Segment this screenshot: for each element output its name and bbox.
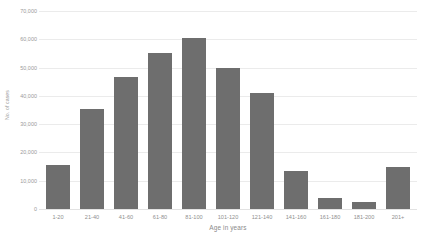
plot-area: [39, 11, 417, 209]
y-axis-title-text: No. of cases: [4, 89, 10, 119]
x-axis-tick-label: 141-160: [279, 211, 313, 223]
bar-slot: [381, 11, 415, 209]
bars-container: [39, 11, 417, 209]
y-axis-tick-label: 0: [34, 206, 37, 212]
x-axis-tick-labels: 1-2021-4041-6061-8081-100101-120121-1401…: [39, 211, 417, 223]
x-axis-tick-label: 101-120: [211, 211, 245, 223]
x-axis-tick-label: 161-180: [313, 211, 347, 223]
bar-chart: No. of cases 010,00020,00030,00040,00050…: [0, 0, 422, 241]
bar[interactable]: [148, 53, 172, 209]
x-axis-tick-label: 1-20: [41, 211, 75, 223]
bar[interactable]: [386, 167, 410, 209]
x-axis-tick-label: 61-80: [143, 211, 177, 223]
y-axis-tick-labels: 010,00020,00030,00040,00050,00060,00070,…: [12, 0, 37, 209]
bar[interactable]: [216, 68, 240, 209]
y-axis-tick-label: 50,000: [20, 65, 37, 71]
bar-slot: [109, 11, 143, 209]
bar[interactable]: [318, 198, 342, 209]
x-axis-tick-label: 41-60: [109, 211, 143, 223]
y-axis-tick-label: 30,000: [20, 121, 37, 127]
y-axis-tick-label: 20,000: [20, 149, 37, 155]
bar-slot: [41, 11, 75, 209]
x-axis-tick-label: 181-200: [347, 211, 381, 223]
bar[interactable]: [182, 38, 206, 209]
bar[interactable]: [284, 171, 308, 209]
bar[interactable]: [114, 77, 138, 209]
bar-slot: [245, 11, 279, 209]
bar[interactable]: [250, 93, 274, 209]
bar-slot: [75, 11, 109, 209]
x-axis-tick-label: 21-40: [75, 211, 109, 223]
x-axis-tick-label: 121-140: [245, 211, 279, 223]
x-axis-tick-label: 201+: [381, 211, 415, 223]
gridline: [39, 209, 417, 210]
bar-slot: [211, 11, 245, 209]
bar-slot: [143, 11, 177, 209]
bar-slot: [279, 11, 313, 209]
bar[interactable]: [80, 109, 104, 209]
bar-slot: [177, 11, 211, 209]
bar-slot: [347, 11, 381, 209]
bar[interactable]: [46, 165, 70, 209]
bar-slot: [313, 11, 347, 209]
y-axis-tick-label: 40,000: [20, 93, 37, 99]
bar[interactable]: [352, 202, 376, 209]
y-axis-tick-label: 70,000: [20, 8, 37, 14]
y-axis-tick-label: 60,000: [20, 36, 37, 42]
y-axis-tick-label: 10,000: [20, 178, 37, 184]
x-axis-title: Age in years: [39, 224, 417, 231]
x-axis-tick-label: 81-100: [177, 211, 211, 223]
